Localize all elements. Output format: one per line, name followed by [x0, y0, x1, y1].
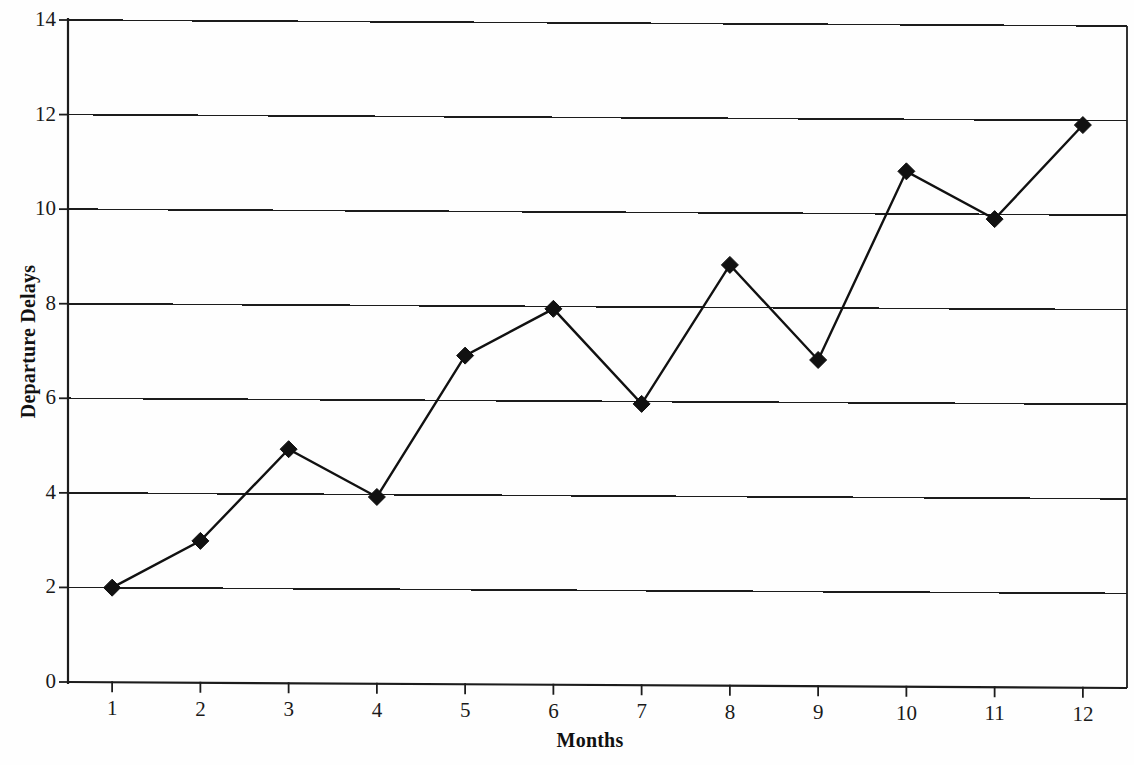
x-tick-label-12: 12	[1063, 704, 1103, 725]
x-tick-label-4: 4	[357, 700, 397, 721]
data-point-5	[457, 347, 474, 364]
data-point-4	[368, 488, 385, 505]
x-tick-label-2: 2	[180, 699, 220, 720]
data-point-1	[104, 579, 121, 596]
y-axis-title: Departure Delays	[17, 252, 40, 432]
x-tick-label-1: 1	[92, 698, 132, 719]
x-axis-title: Months	[0, 729, 1134, 752]
series-polyline	[112, 125, 1083, 588]
y-tick-label-0: 0	[12, 671, 56, 692]
x-tick-label-8: 8	[710, 702, 750, 723]
axes	[68, 18, 1127, 688]
x-tick-label-7: 7	[622, 701, 662, 722]
y-tick-label-14: 14	[12, 9, 56, 30]
gridline-0	[68, 682, 1127, 688]
x-tick-label-6: 6	[533, 701, 573, 722]
chart-plot-area	[0, 0, 1134, 765]
x-tick-label-11: 11	[975, 703, 1015, 724]
data-point-10	[898, 163, 915, 180]
gridline-6	[68, 398, 1127, 404]
gridline-2	[68, 587, 1127, 593]
x-tick-label-9: 9	[798, 702, 838, 723]
y-tick-label-2: 2	[12, 576, 56, 597]
gridline-14	[68, 20, 1127, 26]
y-tick-label-12: 12	[12, 104, 56, 125]
x-tick-label-5: 5	[445, 700, 485, 721]
axis-ticks	[59, 20, 1083, 698]
x-tick-label-10: 10	[886, 703, 926, 724]
gridline-8	[68, 304, 1127, 310]
gridline-10	[68, 209, 1127, 215]
y-tick-label-4: 4	[12, 482, 56, 503]
y-tick-label-10: 10	[12, 198, 56, 219]
gridlines	[68, 20, 1127, 688]
chart-container: 02468101214 123456789101112 Departure De…	[0, 0, 1134, 765]
gridline-4	[68, 493, 1127, 499]
x-tick-label-3: 3	[269, 699, 309, 720]
data-series-line	[112, 125, 1083, 588]
gridline-12	[68, 115, 1127, 121]
